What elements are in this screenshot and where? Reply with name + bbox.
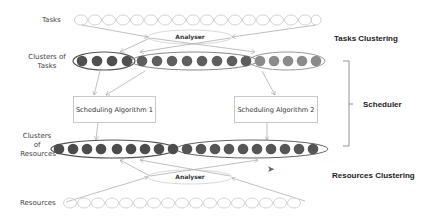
- resources-clustering-title: Resources Clustering: [332, 171, 415, 180]
- scheduler-title: Scheduler: [363, 100, 402, 109]
- scheduling-algorithm-1-box: Scheduling Algorithm 1: [73, 96, 156, 123]
- task-clusters: [73, 52, 325, 70]
- scheduler-bracket: [343, 61, 353, 146]
- analyser-bottom-label: Analyser: [160, 173, 220, 180]
- tasks-label: Tasks: [42, 16, 61, 25]
- scheduling-algorithm-1-label: Scheduling Algorithm 1: [76, 106, 153, 114]
- analyser-top-label: Analyser: [160, 33, 220, 40]
- mouse-cursor-icon: ➤: [267, 164, 275, 174]
- scheduling-algorithm-2-box: Scheduling Algorithm 2: [234, 96, 318, 123]
- clusters-of-resources-label-1: Clusters: [20, 132, 54, 141]
- resource-clusters: [51, 140, 328, 158]
- tasks-clustering-title: Tasks Clustering: [334, 34, 398, 43]
- scheduling-algorithm-2-label: Scheduling Algorithm 2: [237, 106, 314, 114]
- tasks-row: [75, 15, 322, 25]
- clusters-of-resources-label-2: of: [20, 141, 54, 150]
- resources-row: [64, 198, 301, 208]
- clusters-of-resources-label-3: Resources: [18, 150, 58, 159]
- clusters-of-tasks-label: Clusters of Tasks: [26, 53, 68, 71]
- resources-label: Resources: [20, 199, 56, 208]
